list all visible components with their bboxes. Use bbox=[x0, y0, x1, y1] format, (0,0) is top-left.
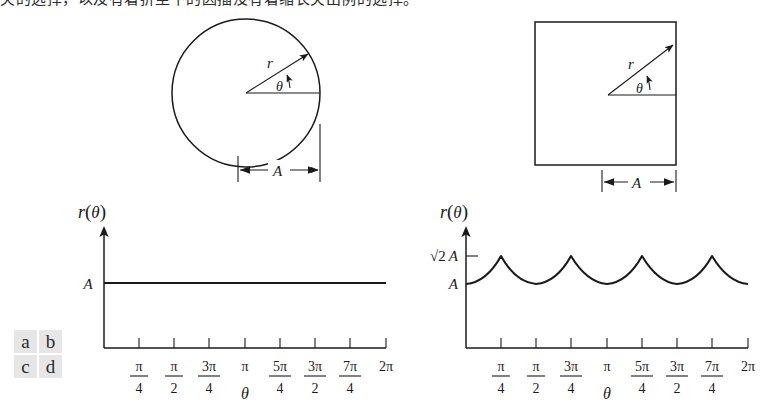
figure-page: 夹的选择，以及有着折坐下的因插没有着缩长夹出例的选择。 a b c d r bbox=[0, 0, 770, 411]
square-outline bbox=[535, 22, 676, 165]
panel-label-grid: a b c d bbox=[13, 329, 63, 379]
circle-radius-plot: r(θ) A π 4 π 2 bbox=[60, 196, 405, 411]
right-plot-series-curve bbox=[466, 256, 748, 284]
square-dimension-label: A bbox=[631, 175, 642, 191]
right-xtick-num-3: π bbox=[603, 359, 610, 374]
right-plot-xticks bbox=[501, 338, 748, 348]
left-plot-ylabel: r(θ) bbox=[78, 201, 106, 223]
right-xtick-den-0: 4 bbox=[498, 381, 505, 396]
circle-radius-label: r bbox=[267, 55, 273, 71]
left-xtick-num-7: 2π bbox=[379, 359, 393, 374]
left-plot-ytick-label-A: A bbox=[82, 276, 93, 292]
square-theta-label: θ bbox=[636, 81, 643, 96]
right-xtick-den-2: 4 bbox=[568, 381, 575, 396]
left-xtick-den-0: 4 bbox=[136, 381, 143, 396]
right-xtick-den-5: 2 bbox=[674, 381, 681, 396]
circle-theta-arc bbox=[287, 75, 290, 88]
circle-dimension-label: A bbox=[272, 163, 283, 179]
right-xtick-den-1: 2 bbox=[533, 381, 540, 396]
left-xtick-num-1: π bbox=[170, 359, 177, 374]
right-xtick-num-7: 2π bbox=[741, 359, 755, 374]
square-radius-label: r bbox=[628, 56, 634, 72]
left-plot-xlabel: θ bbox=[241, 385, 249, 402]
square-aperture-diagram: r θ A bbox=[512, 12, 712, 197]
left-xtick-num-3: π bbox=[241, 359, 248, 374]
circle-aperture-diagram: r θ A bbox=[150, 12, 350, 197]
right-xtick-num-6: 7π bbox=[705, 359, 719, 374]
right-xtick-den-6: 4 bbox=[709, 381, 716, 396]
left-xtick-den-6: 4 bbox=[347, 381, 354, 396]
left-xtick-num-6: 7π bbox=[343, 359, 357, 374]
panel-label-c: c bbox=[13, 354, 38, 379]
circle-dim-arrowhead-right bbox=[308, 166, 318, 174]
left-xtick-num-4: 5π bbox=[273, 359, 287, 374]
right-plot-ylabel: r(θ) bbox=[440, 201, 468, 223]
left-xtick-den-1: 2 bbox=[171, 381, 178, 396]
left-xtick-num-0: π bbox=[135, 359, 142, 374]
left-plot-xtick-labels: π 4 π 2 3π 4 π 5π 4 3π 2 7π 4 2 bbox=[130, 359, 393, 396]
left-plot-xticks bbox=[139, 338, 386, 348]
left-xtick-num-5: 3π bbox=[308, 359, 322, 374]
square-radius-plot: r(θ) √2A A π 4 π bbox=[422, 196, 767, 411]
square-dim-arrowhead-left bbox=[604, 178, 614, 186]
left-xtick-den-5: 2 bbox=[312, 381, 319, 396]
right-xtick-num-0: π bbox=[497, 359, 504, 374]
left-xtick-den-4: 4 bbox=[277, 381, 284, 396]
right-xtick-num-2: 3π bbox=[564, 359, 578, 374]
right-plot-ytick-label-A: A bbox=[448, 276, 459, 292]
right-plot-xtick-labels: π 4 π 2 3π 4 π 5π 4 3π 2 7π 4 2π bbox=[492, 359, 755, 396]
square-dim-arrowhead-right bbox=[664, 178, 674, 186]
right-xtick-num-5: 3π bbox=[670, 359, 684, 374]
right-plot-xlabel: θ bbox=[603, 385, 611, 402]
right-xtick-num-4: 5π bbox=[635, 359, 649, 374]
panel-label-a: a bbox=[13, 329, 38, 354]
right-plot-ytick-label-sqrt2A: √2A bbox=[430, 248, 459, 264]
caption-text: 夹的选择，以及有着折坐下的因插没有着缩长夹出例的选择。 bbox=[0, 0, 770, 10]
circle-theta-label: θ bbox=[276, 79, 283, 94]
left-xtick-num-2: 3π bbox=[202, 359, 216, 374]
right-xtick-num-1: π bbox=[532, 359, 539, 374]
square-theta-arc bbox=[647, 76, 650, 90]
left-xtick-den-2: 4 bbox=[206, 381, 213, 396]
right-xtick-den-4: 4 bbox=[639, 381, 646, 396]
